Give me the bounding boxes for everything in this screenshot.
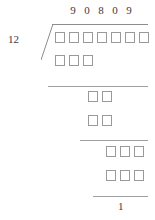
division-vinculum (52, 24, 148, 25)
subtraction-rule (48, 86, 148, 87)
answer-box[interactable] (102, 91, 112, 102)
quotient-digit: 9 (66, 4, 80, 16)
answer-box[interactable] (134, 170, 144, 181)
subtract-row-3 (106, 170, 144, 181)
answer-box[interactable] (125, 32, 135, 43)
answer-box[interactable] (97, 32, 107, 43)
subtract-row-2 (88, 115, 112, 126)
subtraction-rule (93, 196, 148, 197)
long-division-worksheet: 9 0 8 0 9 12 (0, 0, 155, 220)
bringdown-row-1 (88, 91, 112, 102)
remainder-value: 1 (118, 200, 124, 212)
answer-box[interactable] (106, 146, 116, 157)
answer-box[interactable] (55, 55, 65, 66)
answer-box[interactable] (120, 146, 130, 157)
answer-box[interactable] (139, 32, 149, 43)
subtract-row-1 (55, 55, 93, 66)
quotient-digit: 8 (94, 4, 108, 16)
answer-box[interactable] (69, 32, 79, 43)
answer-box[interactable] (134, 146, 144, 157)
answer-box[interactable] (69, 55, 79, 66)
answer-box[interactable] (83, 55, 93, 66)
division-bracket-icon (41, 24, 54, 60)
quotient-digits: 9 0 8 0 9 (66, 4, 136, 16)
quotient-digit: 0 (80, 4, 94, 16)
answer-box[interactable] (111, 32, 121, 43)
divisor-text: 12 (8, 33, 16, 45)
subtraction-rule (80, 140, 148, 141)
answer-box[interactable] (102, 115, 112, 126)
divisor: 12 (8, 33, 16, 45)
answer-box[interactable] (83, 32, 93, 43)
answer-box[interactable] (106, 170, 116, 181)
bringdown-row-2 (106, 146, 144, 157)
answer-box[interactable] (55, 32, 65, 43)
answer-box[interactable] (88, 115, 98, 126)
answer-box[interactable] (120, 170, 130, 181)
answer-box[interactable] (88, 91, 98, 102)
dividend-row (55, 32, 149, 43)
quotient-digit: 0 (108, 4, 122, 16)
quotient-digit: 9 (122, 4, 136, 16)
